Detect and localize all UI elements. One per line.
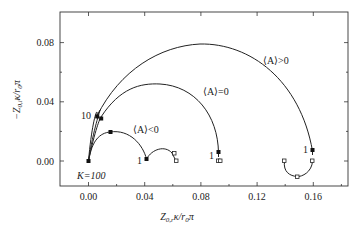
x-tick-label: 0.08 (192, 191, 210, 202)
impedance-plot: 0.00 0.04 0.08 0.12 0.16 0.00 0.04 0.08 … (0, 0, 357, 233)
y-tick-label: 0.00 (37, 156, 55, 167)
y-axis-title: −Z0,iκ/r0π (11, 79, 24, 120)
label-k1-pos: 1 (303, 144, 308, 155)
label-a-positive: ⟨A⟩>0 (263, 55, 289, 66)
x-tick-label: 0.04 (136, 191, 154, 202)
x-axis-title: Z0,rκ/r0π (160, 211, 195, 224)
curve-a-positive-tail (284, 161, 312, 177)
x-ticks (89, 12, 342, 186)
label-k1-neg: 1 (137, 155, 142, 166)
x-tick-label: 0.00 (80, 191, 98, 202)
plot-frame (60, 12, 348, 186)
open-markers (173, 152, 315, 179)
filled-markers (87, 115, 315, 164)
label-k100: K=100 (76, 170, 105, 181)
x-tick-label: 0.12 (248, 191, 266, 202)
y-tick-label: 0.08 (37, 37, 55, 48)
curve-a-negative-tail (147, 149, 177, 161)
x-tick-label: 0.16 (305, 191, 323, 202)
label-a-zero: ⟨A⟩=0 (203, 86, 229, 97)
label-k10: 10 (81, 110, 91, 121)
label-a-negative: ⟨A⟩<0 (133, 124, 159, 135)
curve-a-zero (89, 84, 219, 161)
label-k1-zero: 1 (209, 150, 214, 161)
y-tick-label: 0.04 (37, 96, 55, 107)
